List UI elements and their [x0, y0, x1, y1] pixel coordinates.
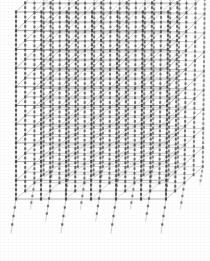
- frame-member: [196, 0, 205, 4]
- node-marker: [49, 35, 51, 38]
- node-marker: [130, 201, 132, 203]
- node-marker: [202, 103, 204, 106]
- node-marker: [33, 16, 35, 19]
- node-marker: [52, 141, 54, 144]
- node-marker: [115, 132, 117, 135]
- node-marker: [40, 160, 42, 163]
- frame-member: [34, 137, 43, 145]
- node-marker: [102, 31, 104, 34]
- node-marker: [140, 184, 142, 187]
- node-marker: [109, 87, 111, 90]
- node-marker: [77, 137, 79, 140]
- node-marker: [49, 185, 51, 188]
- node-marker: [168, 88, 170, 91]
- node-marker: [40, 25, 42, 28]
- node-marker: [159, 125, 161, 128]
- frame-member: [75, 126, 84, 134]
- node-marker: [65, 137, 67, 140]
- node-marker: [127, 98, 129, 101]
- node-marker: [200, 175, 202, 177]
- node-marker: [178, 0, 180, 1]
- node-marker: [152, 79, 154, 82]
- node-marker: [203, 41, 205, 44]
- node-marker: [100, 77, 102, 80]
- node-marker: [144, 31, 146, 34]
- node-marker: [109, 40, 111, 43]
- node-marker: [178, 22, 180, 25]
- node-marker: [176, 6, 178, 9]
- node-marker: [143, 74, 145, 77]
- node-marker: [133, 181, 135, 184]
- node-marker: [68, 31, 70, 34]
- node-marker: [33, 63, 35, 66]
- node-marker: [144, 17, 146, 20]
- node-marker: [175, 114, 177, 117]
- node-marker: [166, 128, 168, 131]
- node-marker: [108, 158, 110, 161]
- node-marker: [33, 44, 35, 47]
- node-marker: [169, 55, 171, 58]
- node-marker: [152, 122, 154, 125]
- node-marker: [84, 143, 86, 146]
- node-marker: [84, 139, 86, 142]
- node-marker: [84, 96, 86, 99]
- node-marker: [131, 195, 133, 197]
- node-marker: [162, 215, 164, 217]
- frame-member: [16, 59, 25, 68]
- node-marker: [90, 184, 92, 187]
- node-marker: [126, 16, 128, 19]
- node-marker: [96, 212, 98, 214]
- node-marker: [118, 173, 120, 176]
- node-marker: [15, 81, 17, 84]
- node-marker: [102, 165, 104, 168]
- node-marker: [82, 188, 84, 190]
- node-marker: [165, 193, 167, 196]
- node-marker: [93, 145, 95, 148]
- frame-member: [25, 51, 34, 60]
- node-marker: [152, 127, 154, 130]
- node-marker: [90, 193, 92, 196]
- node-marker: [125, 25, 127, 28]
- node-marker: [49, 25, 51, 28]
- node-marker: [185, 21, 187, 24]
- node-marker: [143, 159, 145, 162]
- node-marker: [43, 159, 45, 162]
- node-marker: [43, 107, 45, 110]
- node-marker: [202, 132, 204, 135]
- node-marker: [77, 79, 79, 82]
- node-marker: [52, 36, 54, 39]
- node-marker: [124, 189, 126, 192]
- node-marker: [102, 122, 104, 125]
- node-marker: [175, 105, 177, 108]
- node-marker: [90, 128, 92, 131]
- node-marker: [109, 134, 111, 137]
- node-marker: [152, 141, 154, 144]
- node-marker: [118, 50, 120, 53]
- node-marker: [194, 21, 196, 24]
- node-marker: [102, 103, 104, 106]
- node-marker: [168, 150, 170, 153]
- node-marker: [153, 12, 155, 15]
- node-marker: [116, 123, 118, 126]
- node-marker: [160, 16, 162, 19]
- frame-member: [184, 175, 193, 183]
- node-marker: [166, 118, 168, 121]
- node-marker: [15, 15, 17, 18]
- node-marker: [108, 177, 110, 180]
- node-marker: [203, 22, 205, 25]
- node-marker: [24, 44, 26, 47]
- node-marker: [184, 87, 186, 90]
- node-marker: [81, 195, 83, 197]
- node-marker: [75, 91, 77, 94]
- node-marker: [177, 161, 179, 164]
- node-marker: [166, 81, 168, 84]
- node-marker: [200, 179, 202, 181]
- node-marker: [77, 84, 79, 87]
- node-marker: [93, 31, 95, 34]
- frame-member: [100, 183, 109, 191]
- node-marker: [125, 53, 127, 56]
- node-marker: [115, 193, 117, 196]
- node-marker: [185, 7, 187, 10]
- node-marker: [184, 148, 186, 151]
- node-marker: [184, 158, 186, 161]
